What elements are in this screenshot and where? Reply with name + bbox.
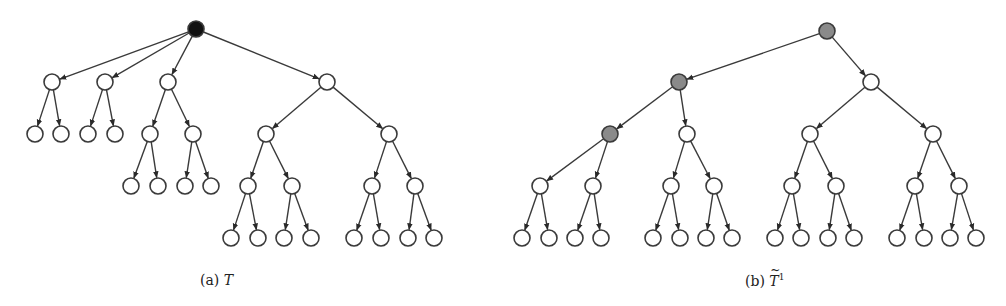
tree-node	[123, 178, 139, 194]
tree-node	[407, 178, 423, 194]
tree-edge	[373, 194, 379, 230]
tree-node	[150, 178, 166, 194]
tree-edge	[547, 139, 604, 181]
tree-edge	[707, 194, 713, 230]
tree-node	[185, 126, 201, 142]
tree-node	[541, 230, 557, 246]
tree-node	[319, 74, 335, 90]
tree-node	[593, 230, 609, 246]
tree-node	[53, 126, 69, 142]
caption-b-symbol: T	[769, 273, 778, 289]
caption-a-symbol: T	[224, 272, 233, 288]
tree-edge	[877, 87, 926, 128]
tree-edge	[656, 194, 669, 230]
tree-edge	[53, 90, 59, 126]
tree-edge	[674, 142, 685, 178]
tree-edge	[151, 142, 157, 178]
tree-edge	[687, 34, 819, 80]
tree-edge	[839, 194, 852, 230]
tree-edge	[962, 194, 974, 230]
tree-node	[80, 126, 96, 142]
tree-node	[532, 178, 548, 194]
tree-edge	[250, 194, 257, 230]
tree-edge	[153, 90, 166, 126]
tree-edge	[375, 142, 387, 178]
tree-node	[942, 230, 958, 246]
tree-node	[373, 230, 389, 246]
tree-node	[426, 230, 442, 246]
tree-edge	[541, 194, 547, 230]
tree-node	[916, 230, 932, 246]
tree-node	[863, 74, 879, 90]
tree-edge	[951, 194, 957, 230]
tree-node	[889, 230, 905, 246]
tree-edge	[270, 141, 289, 178]
tree-node	[968, 230, 984, 246]
tree-b	[514, 23, 984, 246]
highlighted-tree-node	[602, 126, 618, 142]
tree-edge	[186, 142, 192, 178]
tree-node	[724, 230, 740, 246]
caption-a-label: (a)	[200, 272, 219, 288]
tree-edge	[900, 194, 913, 230]
tree-edge	[832, 37, 865, 76]
tree-edge	[525, 194, 538, 230]
tree-node	[107, 126, 123, 142]
tree-edge	[617, 87, 673, 129]
tree-edge	[672, 194, 678, 230]
tree-node	[793, 230, 809, 246]
tree-node	[364, 178, 380, 194]
tree-edge	[234, 194, 246, 230]
tree-node	[820, 230, 836, 246]
tree-edge	[918, 142, 931, 178]
tree-node	[907, 178, 923, 194]
tree-node	[951, 178, 967, 194]
tree-node	[160, 74, 176, 90]
tree-edge	[829, 194, 835, 230]
tree-edge	[91, 90, 103, 126]
tree-node	[97, 74, 113, 90]
tree-node	[381, 126, 397, 142]
tree-node	[240, 178, 256, 194]
tree-edge	[916, 194, 922, 230]
tree-edge	[717, 194, 730, 230]
tree-node	[925, 126, 941, 142]
tree-node	[514, 230, 530, 246]
tree-edge	[357, 194, 370, 230]
tree-node	[223, 230, 239, 246]
tree-edge	[134, 142, 147, 179]
tree-edge	[596, 142, 608, 178]
tree-a	[27, 21, 442, 246]
tree-node	[258, 126, 274, 142]
tree-node	[846, 230, 862, 246]
tree-node	[802, 126, 818, 142]
tree-edge	[793, 194, 799, 230]
caption-a: (a) T	[200, 272, 233, 288]
tree-edge	[172, 89, 190, 126]
tree-edge	[251, 142, 264, 178]
tree-node	[44, 74, 60, 90]
tree-edge	[38, 90, 50, 126]
tree-node	[177, 178, 193, 194]
tree-node	[706, 178, 722, 194]
tree-node	[142, 126, 158, 142]
tree-edge	[333, 87, 382, 128]
tree-node	[645, 230, 661, 246]
tree-node	[303, 230, 319, 246]
tree-edge	[680, 90, 686, 126]
tree-edge	[107, 90, 114, 126]
tree-node	[679, 126, 695, 142]
tree-node	[346, 230, 362, 246]
tree-node	[672, 230, 688, 246]
tree-node	[276, 230, 292, 246]
tree-edge	[814, 141, 833, 178]
tree-edge	[60, 32, 189, 79]
tree-edge	[937, 141, 956, 178]
tree-edge	[418, 194, 431, 231]
tree-edge	[817, 87, 865, 128]
highlighted-tree-node	[188, 21, 204, 37]
tree-edge	[409, 194, 414, 230]
tree-node	[767, 230, 783, 246]
highlighted-tree-node	[819, 23, 835, 39]
tree-edge	[594, 194, 600, 230]
